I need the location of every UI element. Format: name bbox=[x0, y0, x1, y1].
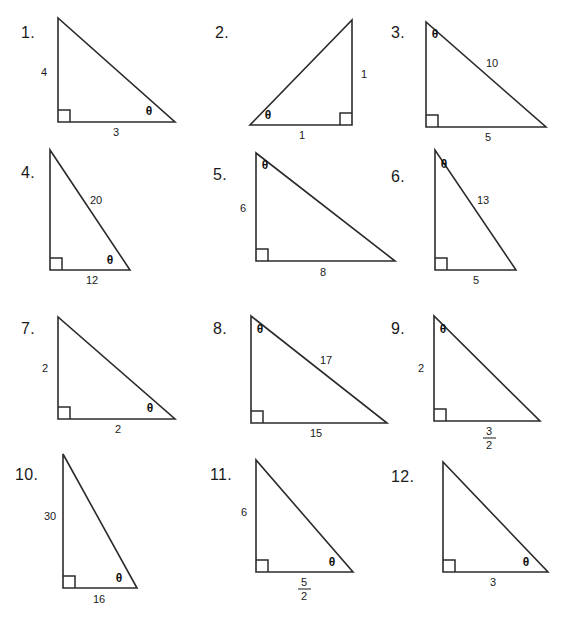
side-label-horizontal-10: 16 bbox=[93, 593, 105, 605]
triangle-figure-7: 7. 2 2 θ bbox=[18, 308, 188, 438]
triangle-figure-8: 8. θ 17 15 bbox=[210, 308, 390, 438]
right-angle-marker-12 bbox=[443, 560, 455, 572]
triangle-figure-3: 3. θ 10 5 bbox=[388, 10, 563, 140]
side-label-horizontal-7: 2 bbox=[115, 423, 121, 435]
triangle-figure-12: 12. 3 θ bbox=[388, 448, 568, 613]
fraction-denominator-11: 2 bbox=[301, 590, 307, 602]
problem-9: 9. θ 2 3 2 bbox=[388, 308, 563, 448]
right-angle-marker-2 bbox=[340, 113, 352, 125]
problem-number-1: 1. bbox=[21, 24, 35, 41]
side-label-hypotenuse-6: 13 bbox=[477, 194, 489, 206]
problem-number-8: 8. bbox=[213, 320, 227, 337]
theta-label-3: θ bbox=[432, 27, 439, 41]
worksheet-sheet: 1. 4 3 θ 2. 1 1 θ 3. θ 10 5 bbox=[0, 0, 569, 619]
problem-2: 2. 1 1 θ bbox=[210, 10, 380, 140]
side-label-horizontal-12: 3 bbox=[490, 576, 496, 588]
triangle-figure-9: 9. θ 2 3 2 bbox=[388, 308, 563, 448]
side-label-horizontal-6: 5 bbox=[473, 274, 479, 286]
side-label-horizontal-2: 1 bbox=[299, 129, 305, 141]
triangle-outline-11 bbox=[256, 460, 353, 572]
problem-8: 8. θ 17 15 bbox=[210, 308, 390, 438]
triangle-outline-12 bbox=[443, 462, 548, 572]
triangle-figure-2: 2. 1 1 θ bbox=[210, 10, 380, 140]
triangle-outline-1 bbox=[58, 18, 175, 122]
triangle-figure-11: 11. 6 5 2 θ bbox=[205, 448, 385, 613]
problem-11: 11. 6 5 2 θ bbox=[205, 448, 385, 613]
problem-number-12: 12. bbox=[391, 468, 414, 485]
theta-label-10: θ bbox=[116, 571, 123, 585]
triangle-outline-7 bbox=[58, 317, 175, 419]
right-angle-marker-4 bbox=[50, 258, 62, 270]
problem-number-4: 4. bbox=[21, 164, 35, 181]
problem-7: 7. 2 2 θ bbox=[18, 308, 188, 438]
side-label-vertical-9: 2 bbox=[418, 362, 424, 374]
side-label-vertical-2: 1 bbox=[361, 68, 367, 80]
side-label-vertical-7: 2 bbox=[42, 362, 48, 374]
triangle-figure-4: 4. 20 12 θ bbox=[18, 148, 188, 288]
triangle-outline-5 bbox=[256, 153, 395, 261]
theta-label-5: θ bbox=[262, 158, 269, 172]
right-angle-marker-10 bbox=[63, 576, 75, 588]
theta-label-7: θ bbox=[147, 401, 154, 415]
problem-number-2: 2. bbox=[215, 24, 229, 41]
side-label-hypotenuse-8: 17 bbox=[320, 354, 332, 366]
side-label-vertical-5: 6 bbox=[240, 202, 246, 214]
problem-5: 5. θ 6 8 bbox=[210, 148, 390, 283]
theta-label-9: θ bbox=[440, 322, 447, 336]
side-label-horizontal-1: 3 bbox=[113, 126, 119, 138]
problem-12: 12. 3 θ bbox=[388, 448, 568, 613]
right-angle-marker-5 bbox=[256, 249, 268, 261]
side-label-horizontal-8: 15 bbox=[310, 427, 322, 439]
fraction-numerator-9: 3 bbox=[486, 425, 492, 437]
right-angle-marker-9 bbox=[434, 409, 446, 421]
side-label-hypotenuse-3: 10 bbox=[486, 57, 498, 69]
theta-label-11: θ bbox=[329, 555, 336, 569]
triangle-outline-9 bbox=[434, 316, 540, 421]
triangle-outline-8 bbox=[251, 316, 387, 423]
problem-number-5: 5. bbox=[213, 166, 227, 183]
right-angle-marker-7 bbox=[58, 407, 70, 419]
side-label-horizontal-4: 12 bbox=[86, 274, 98, 286]
problem-number-7: 7. bbox=[21, 320, 35, 337]
side-label-horizontal-3: 5 bbox=[485, 131, 491, 143]
problem-number-10: 10. bbox=[15, 466, 38, 483]
theta-label-4: θ bbox=[107, 253, 114, 267]
triangle-figure-10: 10. 30 16 θ bbox=[10, 448, 190, 613]
side-label-horizontal-5: 8 bbox=[320, 266, 326, 278]
problem-3: 3. θ 10 5 bbox=[388, 10, 563, 140]
problem-6: 6. θ 13 5 bbox=[388, 148, 563, 288]
right-angle-marker-1 bbox=[58, 110, 70, 122]
side-label-vertical-1: 4 bbox=[41, 66, 47, 78]
theta-label-1: θ bbox=[146, 104, 153, 118]
right-angle-marker-8 bbox=[251, 411, 263, 423]
triangle-figure-1: 1. 4 3 θ bbox=[18, 10, 188, 140]
problem-number-11: 11. bbox=[210, 466, 232, 483]
right-angle-marker-3 bbox=[426, 115, 438, 127]
theta-label-8: θ bbox=[257, 322, 264, 336]
right-angle-marker-11 bbox=[256, 560, 268, 572]
problem-number-3: 3. bbox=[391, 24, 405, 41]
triangle-figure-6: 6. θ 13 5 bbox=[388, 148, 563, 288]
triangle-outline-3 bbox=[426, 22, 546, 127]
problem-10: 10. 30 16 θ bbox=[10, 448, 190, 613]
side-label-vertical-10: 30 bbox=[44, 510, 56, 522]
side-label-vertical-11: 6 bbox=[241, 506, 247, 518]
problem-number-6: 6. bbox=[391, 168, 405, 185]
theta-label-12: θ bbox=[523, 555, 530, 569]
fraction-numerator-11: 5 bbox=[301, 576, 307, 588]
side-label-horizontal-fraction-11: 5 2 bbox=[298, 576, 311, 602]
right-angle-marker-6 bbox=[435, 258, 447, 270]
problem-number-9: 9. bbox=[391, 320, 405, 337]
theta-label-2: θ bbox=[265, 108, 272, 122]
side-label-hypotenuse-4: 20 bbox=[90, 194, 102, 206]
problem-1: 1. 4 3 θ bbox=[18, 10, 188, 140]
triangle-outline-4 bbox=[50, 150, 130, 270]
theta-label-6: θ bbox=[441, 157, 448, 171]
triangle-figure-5: 5. θ 6 8 bbox=[210, 148, 390, 283]
problem-4: 4. 20 12 θ bbox=[18, 148, 188, 288]
triangle-outline-10 bbox=[63, 454, 137, 588]
